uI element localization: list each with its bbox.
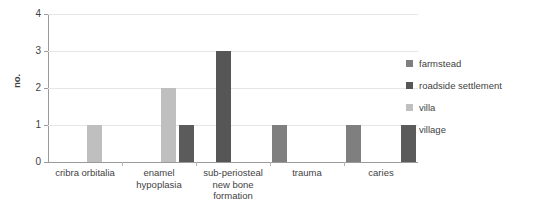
x-axis-label-1: enamel hypoplasia	[122, 167, 196, 190]
bar-farmstead-4[interactable]	[346, 125, 361, 162]
bar-group-0	[48, 14, 122, 162]
legend-label: village	[419, 125, 446, 135]
bar-chart: no. 01234 farmsteadroadside settlementvi…	[0, 0, 538, 223]
legend-swatch-icon	[406, 60, 413, 67]
bar-group-1	[122, 14, 196, 162]
x-tick-mark-1	[122, 162, 123, 166]
bar-villa-1[interactable]	[161, 88, 176, 162]
y-axis-title: no.	[12, 74, 22, 88]
plot-area: 01234	[48, 14, 418, 162]
x-tick-mark-2	[196, 162, 197, 166]
legend-label: farmstead	[419, 59, 461, 69]
legend-swatch-icon	[406, 126, 413, 133]
y-tick-label-1: 1	[35, 120, 41, 130]
y-tick-label-0: 0	[35, 157, 41, 167]
legend-swatch-icon	[406, 104, 413, 111]
bar-slot	[179, 14, 194, 162]
y-tick-mark-0	[44, 162, 48, 163]
legend-label: roadside settlement	[419, 81, 502, 91]
bar-slot	[346, 14, 361, 162]
chart-legend: farmsteadroadside settlementvillavillage	[406, 56, 536, 144]
bar-group-3	[270, 14, 344, 162]
legend-item-roadside-settlement[interactable]: roadside settlement	[406, 78, 536, 93]
x-axis-label-2: sub-periosteal new bone formation	[196, 167, 270, 202]
bar-villa-0[interactable]	[87, 125, 102, 162]
legend-item-village[interactable]: village	[406, 122, 536, 137]
y-tick-label-3: 3	[35, 46, 41, 56]
x-tick-mark-3	[270, 162, 271, 166]
bar-farmstead-3[interactable]	[272, 125, 287, 162]
bar-village-1[interactable]	[179, 125, 194, 162]
x-axis-label-4: caries	[344, 167, 418, 179]
y-tick-label-4: 4	[35, 9, 41, 19]
bar-slot	[161, 14, 176, 162]
legend-swatch-icon	[406, 82, 413, 89]
x-axis-label-0: cribra orbitalia	[48, 167, 122, 179]
legend-item-villa[interactable]: villa	[406, 100, 536, 115]
x-tick-mark-4	[344, 162, 345, 166]
bar-group-2	[196, 14, 270, 162]
bar-slot	[272, 14, 287, 162]
y-tick-label-2: 2	[35, 83, 41, 93]
bar-roadside-settlement-2[interactable]	[216, 51, 231, 162]
legend-label: villa	[419, 103, 435, 113]
bar-slot	[87, 14, 102, 162]
x-axis-label-3: trauma	[270, 167, 344, 179]
legend-item-farmstead[interactable]: farmstead	[406, 56, 536, 71]
gridline-y-0	[48, 162, 418, 163]
bar-slot	[216, 14, 231, 162]
